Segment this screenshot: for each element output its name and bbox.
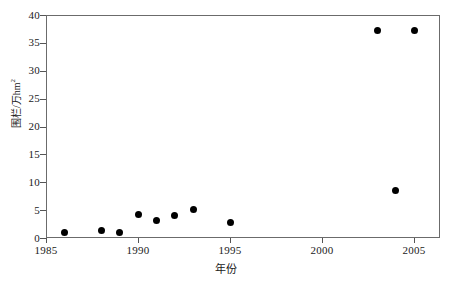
x-tick-mark bbox=[414, 238, 415, 243]
data-point bbox=[227, 219, 234, 226]
scatter-chart: 0510152025303540 19851990199520002005 围栏… bbox=[0, 0, 452, 281]
data-point bbox=[61, 229, 68, 236]
y-tick-label: 5 bbox=[2, 205, 40, 216]
x-tick-mark bbox=[322, 238, 323, 243]
data-point bbox=[135, 211, 142, 218]
y-tick-mark bbox=[40, 15, 46, 16]
x-axis-title: 年份 bbox=[0, 260, 452, 276]
y-tick-mark bbox=[40, 210, 46, 211]
y-tick-mark bbox=[40, 43, 46, 44]
data-point bbox=[190, 206, 197, 213]
x-tick-label: 2005 bbox=[384, 245, 444, 256]
plot-area bbox=[46, 15, 440, 238]
y-axis-title-superscript: 2 bbox=[9, 79, 17, 83]
y-tick-label-wrap: 40 bbox=[0, 10, 40, 21]
x-tick-label: 2000 bbox=[292, 245, 352, 256]
data-point bbox=[153, 217, 160, 224]
x-tick-label: 1985 bbox=[16, 245, 76, 256]
y-tick-label-wrap: 10 bbox=[0, 177, 40, 188]
y-axis-title-text: 围栏/万hm bbox=[11, 82, 22, 128]
y-tick-mark bbox=[40, 182, 46, 183]
x-tick-mark bbox=[46, 238, 47, 243]
x-tick-mark bbox=[230, 238, 231, 243]
data-point bbox=[411, 27, 418, 34]
y-tick-label-wrap: 5 bbox=[0, 205, 40, 216]
data-point bbox=[98, 227, 105, 234]
y-tick-label-wrap: 0 bbox=[0, 233, 40, 244]
y-tick-mark bbox=[40, 154, 46, 155]
x-tick-label: 1990 bbox=[108, 245, 168, 256]
y-tick-label: 10 bbox=[2, 177, 40, 188]
y-tick-mark bbox=[40, 99, 46, 100]
y-axis-title: 围栏/万hm2 bbox=[8, 44, 23, 164]
y-tick-label: 0 bbox=[2, 233, 40, 244]
data-point bbox=[116, 229, 123, 236]
x-tick-mark bbox=[138, 238, 139, 243]
data-point bbox=[374, 27, 381, 34]
y-tick-mark bbox=[40, 71, 46, 72]
x-tick-label: 1995 bbox=[200, 245, 260, 256]
y-tick-mark bbox=[40, 127, 46, 128]
y-tick-label: 40 bbox=[2, 10, 40, 21]
